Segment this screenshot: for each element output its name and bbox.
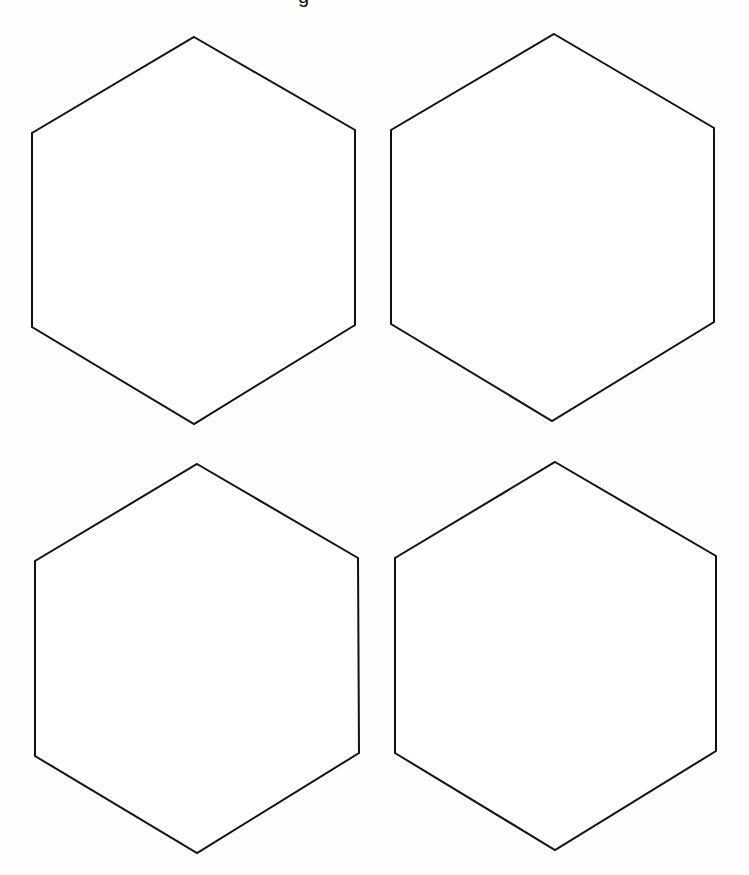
hexagon-top-right bbox=[391, 34, 714, 421]
hexagon-top-left bbox=[32, 37, 355, 424]
hexagon-bottom-left bbox=[35, 464, 359, 853]
hexagon-grid bbox=[0, 0, 749, 875]
hexagon-bottom-right bbox=[395, 462, 716, 850]
template-page: g bbox=[0, 0, 749, 875]
